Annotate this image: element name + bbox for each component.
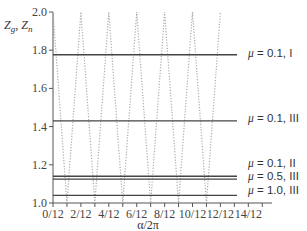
y-tick-label: 1.8 [32, 43, 47, 57]
y-tick-label: 1.4 [32, 120, 47, 134]
x-tick-label: 12/12 [207, 207, 234, 221]
legend-labels: μ = 0.1, Iμ = 0.1, IIIμ = 0.1, IIμ = 0.5… [247, 47, 299, 197]
series-label: μ = 0.1, I [247, 47, 292, 60]
series-label: μ = 0.5, III [247, 170, 299, 183]
x-axis-title: α/2π [137, 218, 159, 231]
series-label: μ = 1.0, III [247, 184, 299, 197]
axes: 1.01.21.41.61.82.00/122/124/126/128/1210… [32, 5, 272, 221]
horizontal-lines [53, 55, 237, 196]
x-tick-label: 10/12 [179, 207, 206, 221]
zigzag-series [53, 12, 220, 203]
series-label: μ = 0.1, II [247, 157, 296, 170]
x-tick-label: 0/12 [42, 207, 63, 221]
y-tick-label: 2.0 [32, 5, 47, 19]
y-tick-label: 1.2 [32, 158, 47, 172]
series-label: μ = 0.1, III [247, 112, 299, 125]
x-tick-label: 14/12 [235, 207, 262, 221]
zigzag-dotted-line [53, 12, 220, 203]
x-tick-label: 4/12 [98, 207, 119, 221]
x-tick-label: 2/12 [70, 207, 91, 221]
y-tick-label: 1.6 [32, 81, 47, 95]
y-axis-title: Zg, Zn [4, 18, 33, 34]
chart: 1.01.21.41.61.82.00/122/124/126/128/1210… [0, 0, 307, 231]
